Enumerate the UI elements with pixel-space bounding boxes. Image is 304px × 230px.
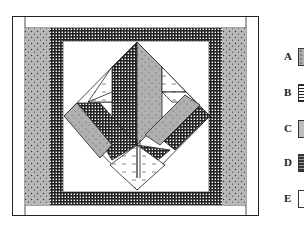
swatch-d xyxy=(298,154,304,172)
swatch-b xyxy=(298,84,304,102)
legend-item-b: B xyxy=(284,84,304,104)
legend-item-d: D xyxy=(284,154,304,174)
legend-item-a: A xyxy=(284,48,304,68)
legend-item-e: E xyxy=(284,190,304,210)
swatch-a xyxy=(298,48,304,66)
swatch-c xyxy=(298,120,304,138)
legend-item-c: C xyxy=(284,120,304,140)
quilt-block-diagram xyxy=(0,0,284,230)
border-left-dotted xyxy=(25,28,50,205)
border-right-dotted xyxy=(222,28,246,205)
swatch-e xyxy=(298,190,304,208)
